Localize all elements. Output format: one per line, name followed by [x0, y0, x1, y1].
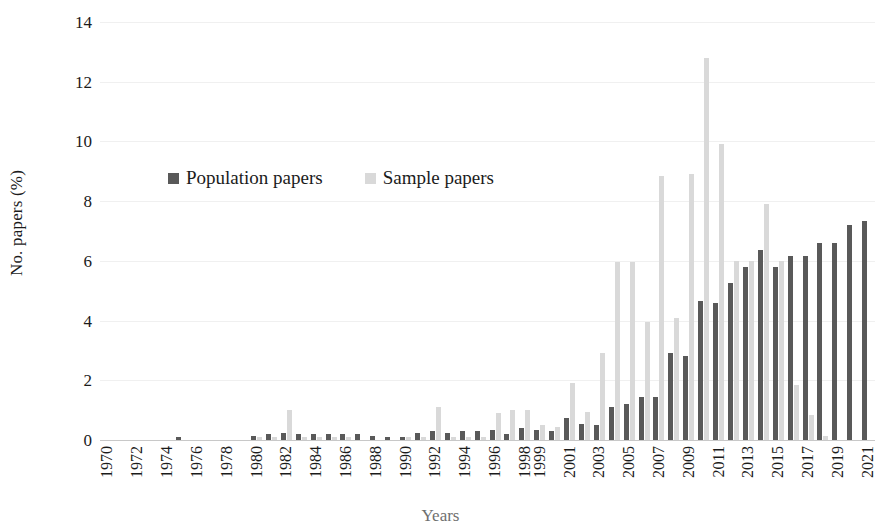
bar-population-papers — [847, 225, 852, 440]
bar-sample-papers — [287, 410, 292, 440]
bar-population-papers — [624, 404, 629, 440]
bar-population-papers — [743, 267, 748, 440]
bar-group — [324, 22, 339, 440]
bar-sample-papers — [332, 437, 337, 440]
bar-group — [592, 22, 607, 440]
bar-group — [845, 22, 860, 440]
x-axis-tick: 2021 — [860, 444, 875, 506]
bar-sample-papers — [257, 437, 262, 440]
bar-population-papers — [490, 430, 495, 440]
bar-group — [786, 22, 801, 440]
bar-sample-papers — [794, 385, 799, 440]
bar-group — [175, 22, 190, 440]
bar-sample-papers — [719, 144, 724, 440]
x-axis-tick-labels: 1970197219741976197819801982198419861988… — [100, 444, 875, 506]
bar-population-papers — [653, 397, 658, 440]
bar-population-papers — [862, 221, 867, 440]
bar-population-papers — [340, 434, 345, 440]
bar-groups — [100, 22, 875, 440]
bar-population-papers — [311, 434, 316, 440]
x-axis-tick-label: 2013 — [740, 446, 756, 478]
bar-population-papers — [176, 437, 181, 440]
bar-group — [219, 22, 234, 440]
x-axis-tick: 1990 — [398, 444, 413, 506]
bar-sample-papers — [302, 437, 307, 440]
x-axis-tick-label: 1972 — [129, 446, 145, 478]
bar-sample-papers — [645, 322, 650, 440]
y-axis-tick-label: 8 — [52, 193, 92, 210]
bar-population-papers — [400, 437, 405, 440]
bar-group — [696, 22, 711, 440]
x-axis-tick: 1976 — [189, 444, 204, 506]
bar-population-papers — [251, 436, 256, 440]
bar-sample-papers — [615, 262, 620, 440]
bar-group — [458, 22, 473, 440]
bar-group — [801, 22, 816, 440]
bar-sample-papers — [674, 318, 679, 440]
x-axis-tick-label: 1974 — [159, 446, 175, 478]
bar-group — [547, 22, 562, 440]
x-axis-tick: 1970 — [100, 444, 115, 506]
bar-population-papers — [564, 418, 569, 440]
bar-population-papers — [698, 301, 703, 440]
y-axis-title: No. papers (%) — [2, 0, 32, 445]
legend-item: Sample papers — [365, 167, 494, 189]
bar-sample-papers — [734, 261, 739, 440]
x-axis-tick — [845, 444, 860, 506]
bar-sample-papers — [585, 412, 590, 440]
bar-sample-papers — [764, 204, 769, 440]
x-axis-tick-label: 1980 — [249, 446, 265, 478]
x-axis-tick: 1988 — [368, 444, 383, 506]
x-axis-tick-label: 1978 — [219, 446, 235, 478]
x-axis-tick: 1999 — [532, 444, 547, 506]
bar-population-papers — [549, 431, 554, 440]
x-axis-tick-label: 1986 — [338, 446, 354, 478]
bar-group — [115, 22, 130, 440]
bar-group — [830, 22, 845, 440]
x-axis-tick — [383, 444, 398, 506]
y-axis-tick-label: 14 — [52, 14, 92, 31]
bar-population-papers — [803, 256, 808, 440]
bar-population-papers — [355, 434, 360, 440]
bar-group — [711, 22, 726, 440]
x-axis-tick-label: 1976 — [189, 446, 205, 478]
bar-sample-papers — [555, 427, 560, 440]
bar-group — [309, 22, 324, 440]
bar-group — [562, 22, 577, 440]
bar-group — [368, 22, 383, 440]
x-axis-tick-label: 1988 — [368, 446, 384, 478]
bar-group — [741, 22, 756, 440]
bar-population-papers — [430, 431, 435, 440]
x-axis-tick: 1984 — [309, 444, 324, 506]
bar-sample-papers — [779, 261, 784, 440]
bar-sample-papers — [525, 410, 530, 440]
legend-swatch-icon — [168, 173, 179, 184]
bar-sample-papers — [481, 437, 486, 440]
plot-area — [100, 22, 875, 440]
x-axis-tick-label: 2001 — [562, 446, 578, 478]
x-axis-tick — [547, 444, 562, 506]
x-axis-tick: 1978 — [219, 444, 234, 506]
x-axis-tick — [696, 444, 711, 506]
bar-sample-papers — [346, 437, 351, 440]
bar-group — [234, 22, 249, 440]
x-axis-tick — [204, 444, 219, 506]
bar-population-papers — [832, 243, 837, 440]
x-axis-tick-label: 1982 — [278, 446, 294, 478]
bar-population-papers — [594, 425, 599, 440]
x-axis-tick: 1992 — [428, 444, 443, 506]
bar-group — [607, 22, 622, 440]
bar-group — [652, 22, 667, 440]
bar-sample-papers — [689, 174, 694, 440]
bar-sample-papers — [704, 58, 709, 440]
y-axis-tick-label: 10 — [52, 133, 92, 150]
bar-population-papers — [370, 436, 375, 440]
x-axis-tick: 1996 — [488, 444, 503, 506]
x-axis-tick: 2015 — [771, 444, 786, 506]
bar-group — [771, 22, 786, 440]
bar-population-papers — [281, 433, 286, 440]
y-axis-tick-label: 0 — [52, 432, 92, 449]
bar-group — [428, 22, 443, 440]
bar-group — [204, 22, 219, 440]
x-axis-tick: 2007 — [652, 444, 667, 506]
